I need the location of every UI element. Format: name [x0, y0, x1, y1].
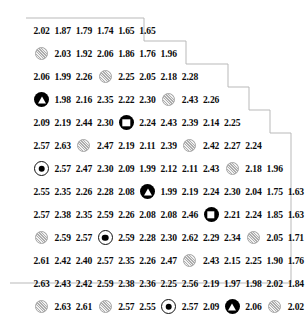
matrix-value: 2.43 [52, 272, 73, 295]
matrix-value: 2.61 [73, 295, 94, 318]
matrix-value: 1.96 [264, 157, 285, 180]
matrix-value: 2.47 [158, 249, 179, 272]
gray-disc-marker-icon [222, 157, 243, 180]
matrix-value: 2.59 [52, 226, 73, 249]
matrix-value: 2.57 [31, 203, 52, 226]
matrix-value: 2.57 [73, 226, 94, 249]
matrix-value: 1.98 [52, 88, 73, 111]
matrix-value: 2.35 [95, 88, 116, 111]
matrix-value: 2.44 [73, 111, 94, 134]
matrix-value: 1.74 [95, 19, 116, 42]
matrix-value: 2.02 [285, 295, 306, 318]
matrix-value: 2.02 [31, 19, 52, 42]
matrix-value: 2.59 [116, 226, 137, 249]
gray-disc-icon [35, 231, 48, 244]
matrix-value: 2.03 [52, 42, 73, 65]
matrix-value: 2.09 [116, 157, 137, 180]
matrix-value: 2.08 [137, 203, 158, 226]
matrix-value: 2.09 [31, 111, 52, 134]
matrix-value: 2.63 [52, 134, 73, 157]
bullseye-icon [98, 230, 113, 245]
matrix-value: 1.90 [264, 249, 285, 272]
gray-disc-marker-icon [73, 134, 94, 157]
bullseye-marker-icon [31, 157, 52, 180]
black-triangle-icon [140, 184, 155, 199]
gray-disc-marker-icon [95, 65, 116, 88]
matrix-value: 2.47 [95, 134, 116, 157]
black-triangle-marker-icon [31, 88, 52, 111]
matrix-value: 2.29 [201, 226, 222, 249]
matrix-value: 2.38 [116, 272, 137, 295]
matrix-row: 2.021.871.791.741.651.65 [31, 19, 158, 42]
matrix-value: 2.19 [201, 272, 222, 295]
matrix-value: 2.27 [222, 134, 243, 157]
matrix-value: 1.97 [222, 272, 243, 295]
matrix-value: 2.30 [158, 226, 179, 249]
matrix-value: 2.24 [201, 180, 222, 203]
matrix-value: 2.22 [116, 88, 137, 111]
matrix-value: 2.57 [116, 295, 137, 318]
black-triangle-icon [34, 92, 49, 107]
matrix-value: 1.86 [116, 42, 137, 65]
matrix-row: 1.982.162.352.222.302.432.26 [31, 88, 222, 111]
matrix-value: 2.24 [137, 111, 158, 134]
matrix-value: 2.42 [73, 272, 94, 295]
matrix-value: 2.35 [116, 249, 137, 272]
matrix-value: 2.46 [179, 203, 200, 226]
gray-disc-marker-icon [179, 249, 200, 272]
matrix-value: 2.43 [158, 111, 179, 134]
bullseye-marker-icon [95, 226, 116, 249]
matrix-value: 2.06 [95, 42, 116, 65]
matrix-value: 2.02 [264, 272, 285, 295]
matrix-value: 1.79 [73, 19, 94, 42]
matrix-row: 2.552.352.262.282.081.992.192.242.302.04… [31, 180, 306, 203]
black-square-marker-icon [201, 203, 222, 226]
matrix-value: 1.87 [52, 19, 73, 42]
matrix-value: 2.28 [137, 226, 158, 249]
gray-disc-marker-icon [179, 134, 200, 157]
matrix-value: 2.25 [116, 65, 137, 88]
matrix-value: 2.55 [137, 295, 158, 318]
matrix-value: 2.62 [179, 226, 200, 249]
matrix-value: 2.26 [137, 249, 158, 272]
gray-disc-icon [226, 162, 239, 175]
matrix-value: 2.30 [95, 111, 116, 134]
matrix-value: 1.96 [158, 42, 179, 65]
matrix-value: 1.63 [285, 180, 306, 203]
matrix-row: 2.092.192.442.302.242.432.392.142.25 [31, 111, 243, 134]
matrix-value: 2.28 [179, 65, 200, 88]
matrix-value: 1.99 [158, 180, 179, 203]
matrix-value: 2.26 [73, 180, 94, 203]
matrix-value: 2.24 [243, 134, 264, 157]
matrix-value: 2.63 [52, 295, 73, 318]
matrix-value: 2.28 [95, 180, 116, 203]
matrix-value: 1.92 [73, 42, 94, 65]
matrix-value: 1.65 [137, 19, 158, 42]
matrix-value: 2.59 [95, 203, 116, 226]
gray-disc-icon [99, 300, 112, 313]
matrix-value: 2.30 [222, 180, 243, 203]
matrix-value: 2.61 [31, 249, 52, 272]
matrix-value: 2.19 [116, 134, 137, 157]
black-square-icon [204, 207, 219, 222]
matrix-value: 2.25 [222, 111, 243, 134]
matrix-value: 2.25 [243, 249, 264, 272]
matrix-value: 2.19 [179, 180, 200, 203]
matrix-value: 2.06 [243, 295, 264, 318]
bullseye-icon [161, 299, 176, 314]
matrix-row: 2.572.472.302.091.992.122.112.432.181.96 [31, 157, 285, 180]
matrix-value: 2.08 [158, 203, 179, 226]
matrix-value: 2.12 [158, 157, 179, 180]
gray-disc-marker-icon [243, 226, 264, 249]
bullseye-icon [34, 161, 49, 176]
matrix-value: 2.43 [179, 88, 200, 111]
matrix-value: 1.76 [285, 249, 306, 272]
matrix-value: 2.09 [201, 295, 222, 318]
matrix-value: 2.08 [116, 180, 137, 203]
matrix-value: 2.26 [201, 88, 222, 111]
matrix-value: 2.26 [116, 203, 137, 226]
gray-disc-marker-icon [31, 295, 52, 318]
gray-disc-icon [35, 47, 48, 60]
matrix-row: 2.061.992.262.252.052.182.28 [31, 65, 201, 88]
gray-disc-icon [99, 70, 112, 83]
